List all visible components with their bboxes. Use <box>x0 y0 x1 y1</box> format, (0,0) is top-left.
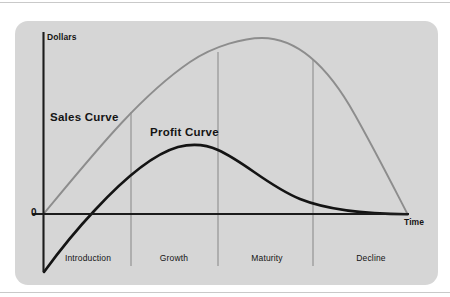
x-axis-label: Time <box>404 218 424 227</box>
stage-label-maturity: Maturity <box>238 254 296 263</box>
origin-label: 0 <box>31 208 37 218</box>
sales-curve-path <box>44 38 408 214</box>
y-axis-label: Dollars <box>47 33 77 42</box>
stage-label-growth: Growth <box>145 254 203 263</box>
profit-curve-label: Profit Curve <box>150 127 219 139</box>
stage-label-decline: Decline <box>342 254 400 263</box>
stage-label-introduction: Introduction <box>57 254 119 263</box>
sales-curve-label: Sales Curve <box>50 112 119 124</box>
figure-page: Dollars 0 Time Sales Curve Profit Curve … <box>0 0 450 297</box>
